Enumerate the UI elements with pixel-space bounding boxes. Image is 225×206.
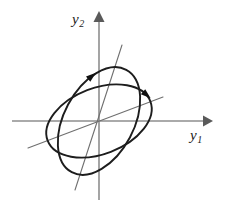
- figure-canvas: [0, 0, 225, 206]
- y2-axis-arrowhead: [94, 11, 105, 22]
- y1-axis-label: y1: [190, 128, 202, 143]
- y2-axis-label-base: y: [72, 11, 79, 27]
- y1-axis-label-base: y: [190, 127, 197, 143]
- phase-plane-figure: y2 y1: [0, 0, 225, 206]
- y2-axis-label: y2: [72, 12, 84, 27]
- y1-axis-arrowhead: [203, 116, 213, 127]
- y2-axis-label-subscript: 2: [79, 18, 84, 29]
- y1-axis: [12, 116, 213, 127]
- y1-axis-label-subscript: 1: [197, 134, 202, 145]
